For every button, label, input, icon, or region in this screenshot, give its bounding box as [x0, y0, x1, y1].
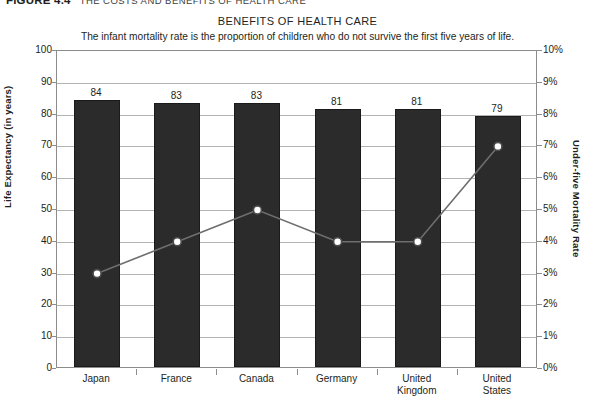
y-tick-right: 3%	[543, 268, 587, 278]
x-label-line: States	[452, 385, 542, 396]
y-tick-left: 30	[12, 268, 52, 278]
y-tick-right: 5%	[543, 204, 587, 214]
y-tick-right: 9%	[543, 77, 587, 87]
y-tick-mark	[537, 82, 542, 83]
x-label-line: France	[131, 373, 221, 385]
y-tick-left: 80	[12, 109, 52, 119]
bar	[315, 109, 361, 367]
gridline	[57, 305, 536, 306]
x-label-line: Germany	[292, 373, 382, 385]
figure-number: FIGURE 4.4	[6, 0, 71, 6]
x-label-line: Canada	[211, 373, 301, 385]
gridline	[57, 210, 536, 211]
bar	[395, 109, 441, 367]
figure-caption-text: THE COSTS AND BENEFITS OF HEALTH CARE	[80, 0, 307, 6]
gridline	[57, 115, 536, 116]
y-tick-right: 4%	[543, 236, 587, 246]
figure-caption: FIGURE 4.4THE COSTS AND BENEFITS OF HEAL…	[6, 0, 306, 8]
y-tick-mark	[537, 50, 542, 51]
x-axis-label: UnitedKingdom	[372, 373, 462, 396]
y-tick-left: 40	[12, 236, 52, 246]
figure-container: FIGURE 4.4THE COSTS AND BENEFITS OF HEAL…	[0, 0, 595, 396]
x-axis-label: Germany	[292, 373, 382, 385]
gridline	[57, 178, 536, 179]
gridline	[57, 337, 536, 338]
bar-value-label: 84	[76, 88, 116, 98]
bar-value-label: 83	[156, 91, 196, 101]
y-tick-mark	[537, 114, 542, 115]
bar	[234, 103, 280, 367]
bar	[74, 100, 120, 367]
y-tick-right: 1%	[543, 331, 587, 341]
gridline	[57, 146, 536, 147]
bar	[475, 116, 521, 367]
y-tick-right: 0%	[543, 363, 587, 373]
y-tick-mark	[51, 368, 56, 369]
y-tick-mark	[537, 177, 542, 178]
y-tick-mark	[537, 273, 542, 274]
chart-subtitle: The infant mortality rate is the proport…	[0, 31, 595, 42]
y-tick-left: 50	[12, 204, 52, 214]
y-tick-right: 2%	[543, 299, 587, 309]
gridline	[57, 274, 536, 275]
y-tick-right: 6%	[543, 172, 587, 182]
gridline	[57, 83, 536, 84]
x-axis-label: UnitedStates	[452, 373, 542, 396]
gridline	[57, 242, 536, 243]
x-axis-label: France	[131, 373, 221, 385]
x-label-line: United	[452, 373, 542, 385]
bar-value-label: 81	[317, 97, 357, 107]
plot-area	[56, 50, 537, 368]
y-tick-mark	[537, 336, 542, 337]
y-tick-left: 20	[12, 299, 52, 309]
y-tick-left: 70	[12, 140, 52, 150]
x-label-line: Japan	[51, 373, 141, 385]
bar	[154, 103, 200, 367]
y-tick-left: 60	[12, 172, 52, 182]
x-axis-label: Canada	[211, 373, 301, 385]
y-tick-right: 7%	[543, 140, 587, 150]
y-tick-mark	[537, 241, 542, 242]
y-tick-mark	[537, 145, 542, 146]
y-tick-mark	[537, 304, 542, 305]
bar-value-label: 81	[397, 97, 437, 107]
y-tick-left: 10	[12, 331, 52, 341]
y-tick-left: 90	[12, 77, 52, 87]
chart-title: BENEFITS OF HEALTH CARE	[0, 15, 595, 27]
y-tick-left: 100	[12, 45, 52, 55]
y-tick-right: 8%	[543, 109, 587, 119]
y-tick-left: 0	[12, 363, 52, 373]
y-tick-right: 10%	[543, 45, 587, 55]
y-tick-mark	[537, 368, 542, 369]
x-label-line: United	[372, 373, 462, 385]
y-tick-mark	[537, 209, 542, 210]
x-axis-label: Japan	[51, 373, 141, 385]
bar-value-label: 79	[477, 104, 517, 114]
x-label-line: Kingdom	[372, 385, 462, 396]
bar-value-label: 83	[236, 91, 276, 101]
